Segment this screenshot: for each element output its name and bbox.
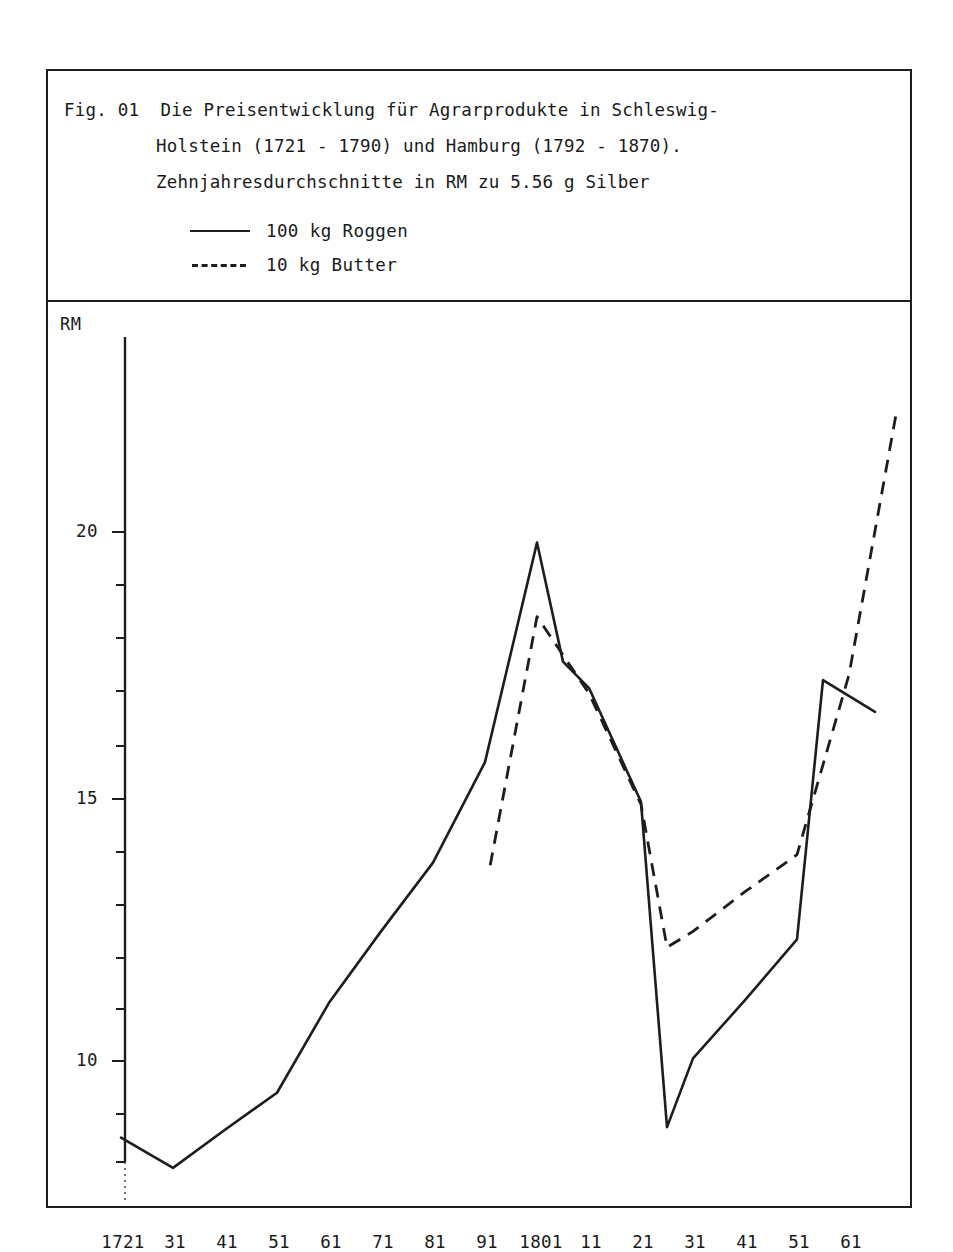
x-tick-label-1: 31 [164,1232,186,1252]
x-tick-label-14: 61 [840,1232,862,1252]
series-line-roggen [121,543,875,1168]
chart-legend: 100 kg Roggen 10 kg Butter [188,214,408,282]
figure-frame: Fig. 01 Die Preisentwicklung für Agrarpr… [46,69,912,1208]
x-tick-label-7: 91 [476,1232,498,1252]
caption-line-1: Fig. 01 Die Preisentwicklung für Agrarpr… [64,92,894,128]
y-axis-ticks [112,532,125,1162]
series-line-butter [490,416,896,948]
legend-item-butter: 10 kg Butter [188,248,408,282]
x-tick-label-0: 1721 [101,1232,144,1252]
x-tick-label-12: 41 [736,1232,758,1252]
caption-block: Fig. 01 Die Preisentwicklung für Agrarpr… [48,71,910,302]
chart-plot [48,302,910,1206]
y-tick-label-10: 10 [54,1050,98,1070]
caption-line-3: Zehnjahresdurchschnitte in RM zu 5.56 g … [64,164,894,200]
legend-dashed-line-icon [188,259,252,271]
y-tick-label-20: 20 [54,521,98,541]
x-tick-label-5: 71 [372,1232,394,1252]
x-tick-label-6: 81 [424,1232,446,1252]
y-tick-label-15: 15 [54,788,98,808]
figure-caption: Fig. 01 Die Preisentwicklung für Agrarpr… [64,92,894,200]
x-tick-label-10: 21 [632,1232,654,1252]
legend-item-roggen: 100 kg Roggen [188,214,408,248]
x-tick-label-13: 51 [788,1232,810,1252]
caption-line-2: Holstein (1721 - 1790) und Hamburg (1792… [64,128,894,164]
legend-label-butter: 10 kg Butter [266,255,397,275]
x-tick-label-11: 31 [684,1232,706,1252]
x-tick-label-3: 51 [268,1232,290,1252]
plot-area: RM [48,302,910,1206]
x-tick-label-8: 1801 [519,1232,562,1252]
x-tick-label-2: 41 [216,1232,238,1252]
legend-solid-line-icon [188,225,252,237]
x-tick-label-4: 61 [320,1232,342,1252]
legend-label-roggen: 100 kg Roggen [266,221,408,241]
x-tick-label-9: 11 [580,1232,602,1252]
